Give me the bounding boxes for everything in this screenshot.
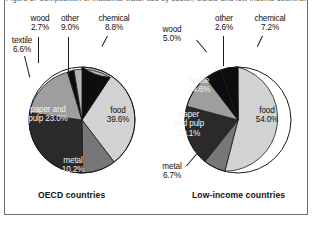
leader-line-other-oecd (68, 37, 69, 75)
label-chemical-low: chemical7.2% (246, 14, 294, 33)
label-food-oecd: food39.6% (96, 106, 140, 125)
leader-line-chemical-low (257, 36, 263, 47)
label-other-low: other2.6% (204, 14, 244, 33)
label-wood-low: wood5.0% (152, 25, 192, 44)
leader-line-other-low (223, 36, 224, 66)
frame-border-right (307, 0, 308, 215)
label-food-low: food54.0% (245, 106, 289, 125)
label-metal-low: metal6.7% (155, 162, 189, 181)
leader-line-chemical-oecd (101, 36, 108, 47)
frame-border-left (4, 0, 5, 215)
label-other-oecd: other9.0% (50, 14, 90, 33)
caption-low-income: Low-income countries (192, 190, 285, 200)
frame-border-bottom (4, 214, 308, 215)
figure-container: Figure 2. Composition of industrial wate… (0, 0, 314, 226)
caption-oecd: OECD countries (38, 190, 105, 200)
figure-title: Figure 2. Composition of industrial wate… (6, 0, 306, 4)
label-textile-low: textile14.6% (177, 76, 221, 95)
leader-line-wood-low (196, 40, 207, 53)
label-paper-pulp-oecd: paper andpulp 23.0% (15, 105, 81, 124)
label-paper-pulp-low: paperand pulp10.1% (163, 110, 215, 138)
label-chemical-oecd: chemical8.8% (90, 14, 138, 33)
label-textile-oecd: textile6.6% (2, 36, 42, 55)
label-metal-oecd: metal10.2% (53, 156, 93, 175)
